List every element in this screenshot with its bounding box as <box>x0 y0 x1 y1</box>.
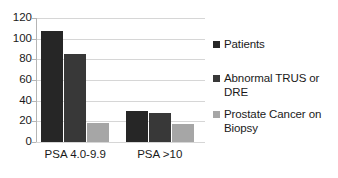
legend-label: Prostate Cancer on Biopsy <box>224 108 335 135</box>
y-axis-tick-label: 100 <box>0 33 32 45</box>
gridline <box>36 142 205 143</box>
y-axis-tick-mark <box>32 18 36 19</box>
bar <box>64 54 86 142</box>
y-axis-tick-mark <box>32 39 36 40</box>
x-axis-tick-label: PSA >10 <box>137 147 182 161</box>
y-axis-tick-label: 20 <box>0 116 32 128</box>
legend-entry: Patients <box>213 38 265 52</box>
y-axis-tick-mark <box>32 59 36 60</box>
plot-area <box>36 18 205 142</box>
legend-entry: Prostate Cancer on Biopsy <box>213 108 335 135</box>
y-axis-tick-mark <box>32 80 36 81</box>
legend-swatch-icon <box>213 111 220 118</box>
y-axis-tick-label: 60 <box>0 74 32 86</box>
y-axis-tick-label: 0 <box>0 136 32 148</box>
y-axis-tick-label: 80 <box>0 54 32 66</box>
legend-swatch-icon <box>213 75 220 82</box>
bar-group <box>126 18 194 142</box>
y-axis-tick-labels: 020406080100120 <box>0 18 32 142</box>
y-axis-tick-mark <box>32 101 36 102</box>
bar <box>87 123 109 142</box>
legend-entry: Abnormal TRUS or DRE <box>213 72 335 99</box>
legend-label: Patients <box>224 38 265 52</box>
bar <box>149 113 171 142</box>
x-axis-tick-label: PSA 4.0-9.9 <box>45 147 106 161</box>
bar <box>41 31 63 142</box>
y-axis-tick-mark <box>32 142 36 143</box>
y-axis-tick-mark <box>32 121 36 122</box>
x-axis-tick-labels: PSA 4.0-9.9PSA >10 <box>36 147 205 167</box>
legend-label: Abnormal TRUS or DRE <box>224 72 335 99</box>
bar-chart: 020406080100120 PSA 4.0-9.9PSA >10 Patie… <box>0 0 338 178</box>
y-axis-tick-label: 120 <box>0 12 32 24</box>
legend-swatch-icon <box>213 41 220 48</box>
bar <box>126 111 148 142</box>
bar-group <box>41 18 109 142</box>
bar <box>172 124 194 142</box>
y-axis-tick-label: 40 <box>0 95 32 107</box>
y-axis-line <box>36 18 37 142</box>
